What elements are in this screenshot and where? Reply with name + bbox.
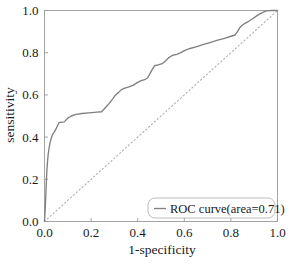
roc-chart: 0.00.20.40.60.81.0 0.00.20.40.60.81.0 1-… [0, 0, 298, 266]
x-axis-title: 1-specificity [128, 242, 196, 257]
x-tick-label: 1.0 [269, 225, 285, 240]
y-tick-label: 0.0 [22, 214, 38, 229]
x-tick-label: 0.0 [36, 225, 52, 240]
y-tick-label: 0.6 [22, 87, 39, 102]
roc-plot-svg: 0.00.20.40.60.81.0 0.00.20.40.60.81.0 1-… [0, 0, 298, 266]
x-tick-label: 0.8 [223, 225, 239, 240]
x-tick-label: 0.2 [83, 225, 99, 240]
legend-label: ROC curve(area=0.71) [170, 202, 285, 216]
y-tick-label: 0.8 [22, 45, 38, 60]
y-tick-label: 0.2 [22, 172, 38, 187]
x-tick-label: 0.4 [130, 225, 147, 240]
chart-legend: ROC curve(area=0.71) [148, 198, 285, 218]
y-axis-title: sensitivity [2, 87, 17, 143]
y-tick-label: 1.0 [22, 3, 38, 18]
x-tick-label: 0.6 [176, 225, 193, 240]
y-tick-label: 0.4 [22, 130, 39, 145]
